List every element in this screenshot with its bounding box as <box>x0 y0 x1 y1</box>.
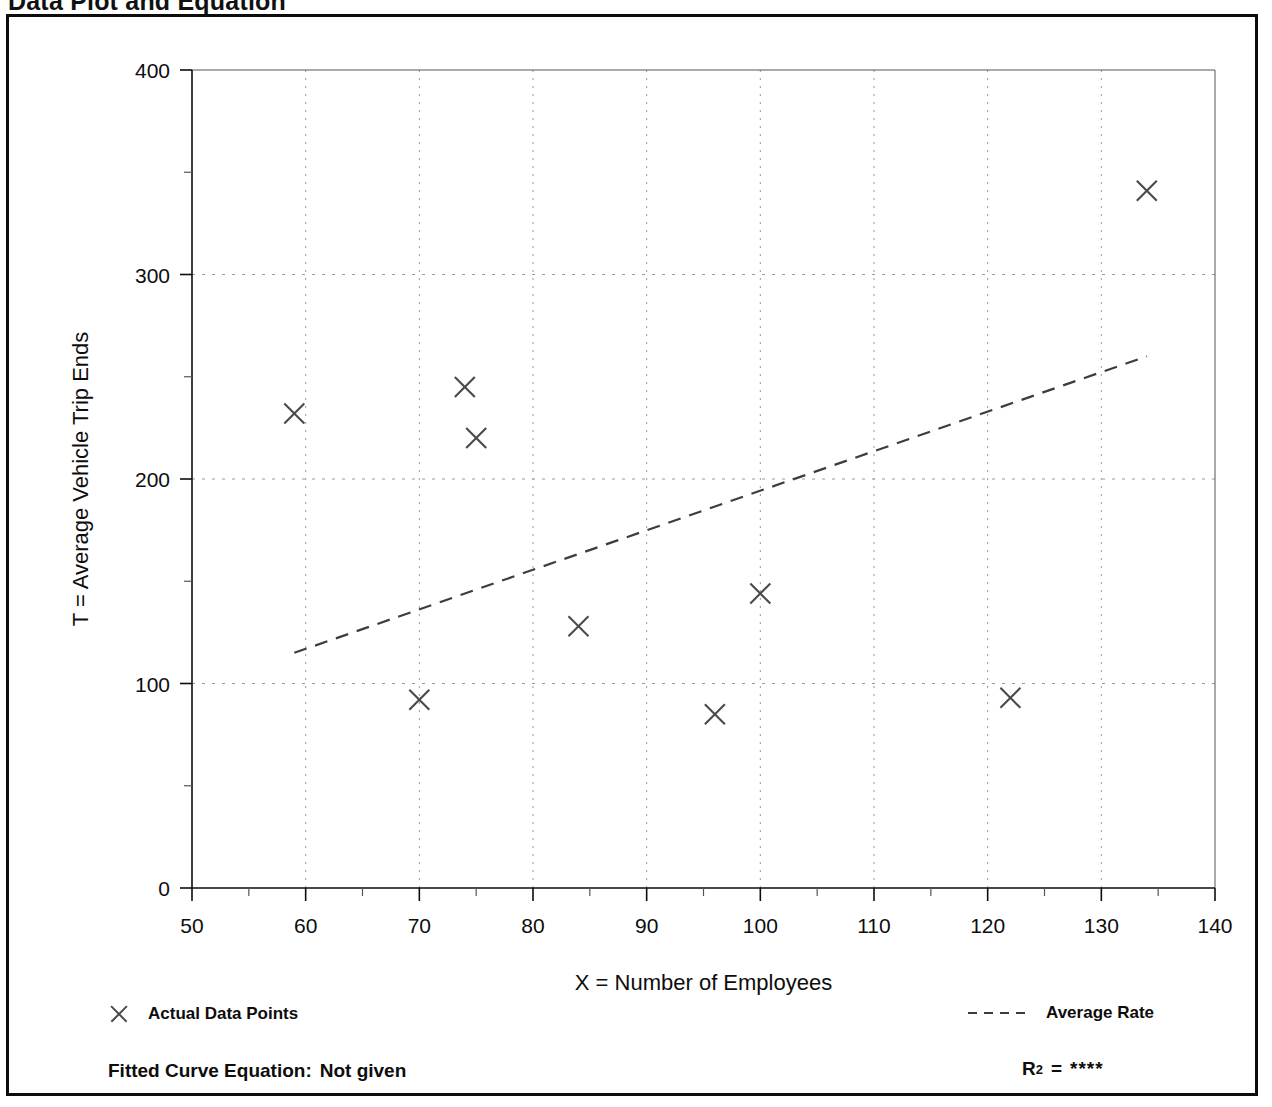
legend-label-actual-data-points: Actual Data Points <box>148 1004 298 1024</box>
legend-item-actual-data-points: Actual Data Points <box>108 1003 298 1025</box>
r-squared-exponent: 2 <box>1036 1062 1043 1077</box>
fitted-curve-equation: Fitted Curve Equation: Not given <box>108 1060 406 1082</box>
chart-frame <box>6 14 1258 1096</box>
r-squared-value: R2 = **** <box>1022 1058 1104 1080</box>
legend-item-average-rate: Average Rate <box>968 1003 1154 1023</box>
r-squared-symbol: R <box>1022 1058 1036 1080</box>
r-squared-stars: **** <box>1070 1058 1104 1080</box>
equation-label: Fitted Curve Equation: <box>108 1060 312 1082</box>
dashed-line-icon <box>968 1012 1030 1014</box>
legend-label-average-rate: Average Rate <box>1046 1003 1154 1023</box>
equation-value: Not given <box>320 1060 407 1082</box>
r-squared-equals: = <box>1051 1058 1062 1080</box>
chart-page: Data Plot and Equation 01002003004005060… <box>0 0 1272 1107</box>
x-mark-icon <box>108 1003 130 1025</box>
